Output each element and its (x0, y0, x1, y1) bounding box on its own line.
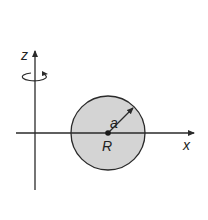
x-axis-label: x (182, 137, 191, 153)
z-axis-label: z (20, 47, 28, 63)
center-point (105, 130, 111, 136)
diagram-canvas: z x a R (0, 0, 208, 220)
radius-label: a (110, 115, 118, 131)
center-label: R (102, 138, 112, 154)
